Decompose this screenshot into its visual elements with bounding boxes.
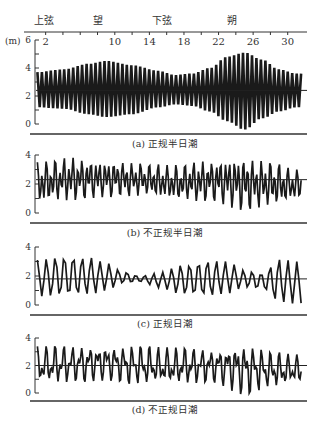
- y-tick-label: 0: [25, 119, 31, 129]
- y-tick-label: 0: [25, 208, 31, 218]
- tide-types-figure: 上弦 望 下弦 朔 2101418222630 (m) 024602402402…: [0, 0, 324, 431]
- day-tick-label: 14: [143, 36, 156, 47]
- panel-c-caption: (c) 正规日潮: [137, 318, 193, 329]
- day-tick-label: 26: [247, 36, 260, 47]
- y-tick-label: 2: [25, 179, 31, 189]
- panel-d: 024: [25, 333, 307, 401]
- day-tick-label: 18: [178, 36, 191, 47]
- y-tick-label: 4: [25, 333, 31, 343]
- panel-d-caption: (d) 不正规日潮: [132, 404, 199, 415]
- tide-curve: [37, 346, 301, 394]
- tide-curve: [37, 53, 301, 130]
- y-tick-label: 2: [25, 91, 31, 101]
- day-tick-labels: 2101418222630: [42, 36, 294, 47]
- y-tick-label: 2: [25, 361, 31, 371]
- y-tick-label: 4: [25, 150, 31, 160]
- y-tick-label: 6: [25, 35, 31, 45]
- moon-phase-label: 朔: [227, 14, 237, 26]
- y-tick-label: 0: [25, 388, 31, 398]
- moon-phase-label: 望: [93, 14, 103, 26]
- day-tick-label: 30: [281, 36, 294, 47]
- day-tick-label: 22: [212, 36, 225, 47]
- moon-phase-label: 下弦: [152, 14, 172, 26]
- panel-b-caption: (b) 不正规半日潮: [127, 227, 204, 238]
- panel-a-caption: (a) 正规半日潮: [132, 138, 198, 149]
- tide-curve: [37, 158, 301, 210]
- day-tick-label: 10: [108, 36, 121, 47]
- panel-a: 0246: [25, 35, 307, 134]
- day-tick-label: 2: [42, 36, 48, 47]
- tide-curve: [37, 258, 301, 303]
- y-tick-label: 0: [25, 300, 31, 310]
- y-unit-label: (m): [5, 36, 21, 46]
- tide-chart-canvas: 上弦 望 下弦 朔 2101418222630 (m) 024602402402…: [0, 0, 324, 431]
- y-tick-label: 4: [25, 242, 31, 252]
- panel-b: 024: [25, 150, 307, 223]
- y-tick-label: 4: [25, 63, 31, 73]
- y-tick-label: 2: [25, 271, 31, 281]
- tide-panels: 0246024024024: [25, 35, 307, 401]
- moon-phase-label: 上弦: [34, 14, 54, 26]
- panel-c: 024: [25, 242, 307, 315]
